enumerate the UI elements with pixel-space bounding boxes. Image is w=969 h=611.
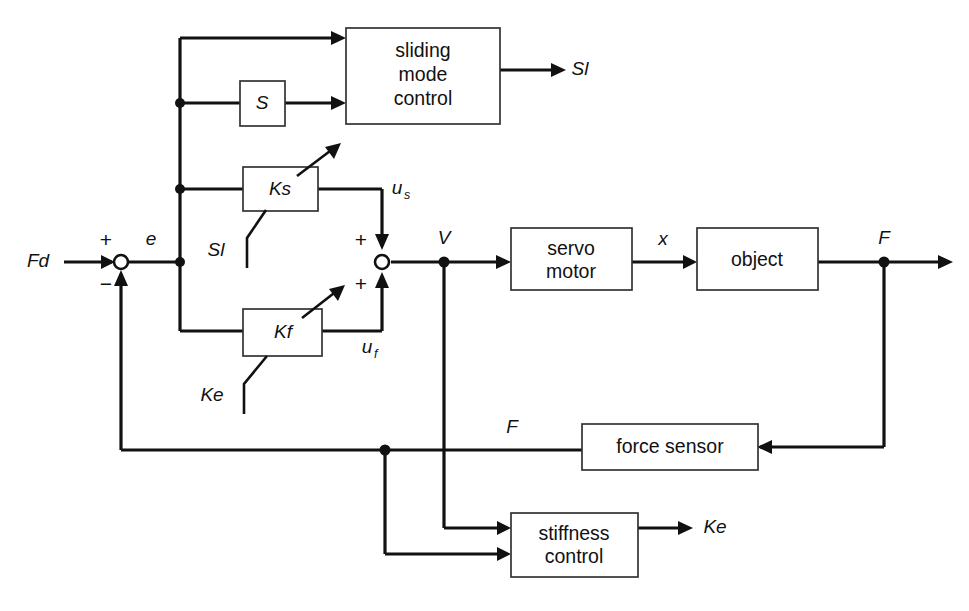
arrowhead-s-to-smc (331, 96, 346, 110)
label-us-base: u (392, 177, 403, 198)
label-uf-subscript: f (374, 347, 379, 361)
servo-motor-label-line2: motor (546, 260, 596, 282)
label-uf-base: u (362, 336, 373, 357)
label-velocity: V (438, 227, 453, 248)
ks-arrow-head (325, 143, 341, 159)
arrowhead-feedback-into-sum (114, 270, 128, 286)
block-force-sensor[interactable]: force sensor (582, 424, 758, 470)
label-force-feedback: F (506, 416, 519, 437)
label-desired-force: Fd (27, 250, 51, 271)
wire-network (64, 31, 953, 561)
object-label: object (731, 248, 784, 270)
junction-dot-ks-branch (175, 184, 185, 194)
label-sum-plus: + (100, 228, 112, 251)
block-switching-function-s[interactable]: S (240, 81, 285, 126)
force-sensor-label: force sensor (616, 435, 724, 457)
label-stiffness-output: Ke (703, 516, 726, 537)
label-us-subscript: s (404, 188, 410, 202)
block-diagram-svg: sliding mode control S Ks Kf servo motor… (0, 0, 969, 611)
sliding-mode-control-label-line1: sliding (395, 39, 450, 61)
ks-adjustable-arrow (297, 143, 341, 176)
junction-dot-s-branch (175, 98, 185, 108)
switching-function-label: S (256, 92, 269, 113)
block-gain-kf[interactable]: Kf (243, 309, 322, 356)
label-sum-minus: − (100, 272, 112, 295)
arrowhead-smc-output (551, 63, 566, 77)
label-switch-sl: Sl (208, 239, 226, 260)
block-gain-ks[interactable]: Ks (243, 167, 318, 211)
gain-ks-label: Ks (269, 178, 292, 199)
label-displacement: x (657, 228, 669, 249)
label-switch-ke: Ke (200, 384, 223, 405)
label-force: F (878, 227, 891, 248)
gain-kf-label: Kf (274, 321, 294, 342)
kf-adjustable-arrow (302, 285, 345, 318)
arrowhead-object-output (938, 255, 953, 269)
arrowhead-stiffness-upper-input (497, 521, 511, 535)
sliding-mode-control-label-line3: control (394, 87, 453, 109)
stiffness-control-label-line1: stiffness (538, 522, 609, 544)
servo-motor-label-line1: servo (547, 237, 595, 259)
stiffness-control-label-line2: control (545, 545, 604, 567)
arrowhead-us-into-sum (375, 234, 389, 250)
label-sum2-plus-bottom: + (355, 272, 367, 295)
arrowhead-stiffness-output (678, 521, 693, 535)
junction-dot-force-feedback (380, 445, 391, 456)
arrowhead-into-servo (496, 255, 511, 269)
block-servo-motor[interactable]: servo motor (511, 228, 632, 290)
label-error: e (146, 228, 157, 249)
arrowhead-uf-into-sum (375, 272, 389, 288)
arrowhead-smc-direct (331, 31, 346, 45)
label-sliding-output: Sl (572, 58, 590, 79)
block-object[interactable]: object (697, 228, 818, 290)
kf-arrow-head (329, 285, 345, 301)
arrowhead-stiffness-lower-input (497, 547, 511, 561)
kf-switch-line (244, 356, 267, 414)
ks-switch-line (247, 210, 266, 268)
block-diagram-canvas: sliding mode control S Ks Kf servo motor… (0, 0, 969, 611)
block-sliding-mode-control[interactable]: sliding mode control (346, 28, 500, 124)
junction-dot-error (175, 257, 185, 267)
arrowhead-into-object (683, 255, 697, 269)
sliding-mode-control-label-line2: mode (399, 63, 448, 85)
ks-switch-stem (247, 210, 266, 268)
summing-junction-error (114, 255, 128, 269)
kf-switch-stem (244, 356, 267, 414)
label-sum2-plus-top: + (355, 228, 367, 251)
arrowhead-into-force-sensor (757, 440, 772, 454)
block-stiffness-control[interactable]: stiffness control (511, 513, 638, 577)
summing-junction-control (375, 255, 389, 269)
junction-dot-velocity (439, 257, 450, 268)
junction-dot-force (879, 257, 890, 268)
